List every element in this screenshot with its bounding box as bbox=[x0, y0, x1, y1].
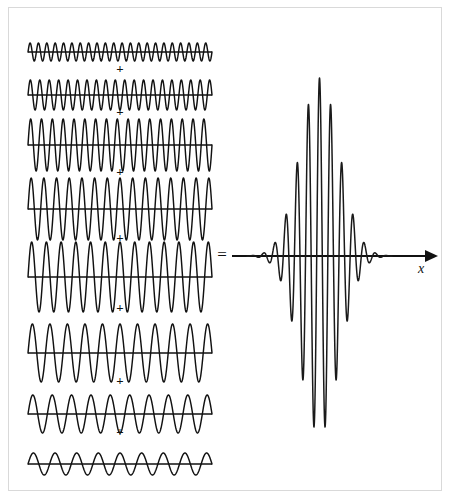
plus-sign: + bbox=[116, 164, 123, 179]
wave-superposition-figure: +++++++ = x bbox=[0, 0, 450, 499]
wave-packet-curve bbox=[247, 78, 392, 427]
x-axis-arrowhead bbox=[425, 250, 438, 262]
plus-sign: + bbox=[116, 424, 123, 439]
plus-sign: + bbox=[116, 61, 123, 76]
plus-sign: + bbox=[116, 230, 123, 245]
plus-sign: + bbox=[116, 104, 123, 119]
plus-sign: + bbox=[116, 373, 123, 388]
plus-sign: + bbox=[116, 300, 123, 315]
plus-sign-group: +++++++ bbox=[116, 61, 123, 439]
equals-sign: = bbox=[217, 245, 227, 264]
wave-packet-group: x bbox=[232, 78, 438, 427]
figure-root: +++++++ = x bbox=[0, 0, 450, 499]
x-axis-label: x bbox=[417, 261, 425, 276]
